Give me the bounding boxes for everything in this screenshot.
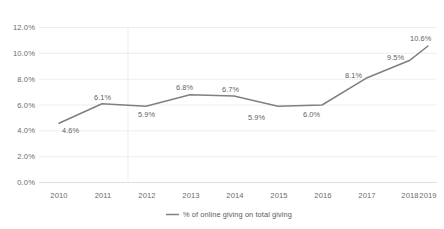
x-tick-label-2013: 2013	[173, 191, 209, 200]
x-tick-label-2011: 2011	[85, 191, 121, 200]
data-label-2014: 6.7%	[222, 85, 239, 94]
y-tick-label-8: 8.0%	[0, 75, 35, 84]
data-label-2013: 6.8%	[176, 83, 193, 92]
x-tick-label-2016: 2016	[305, 191, 341, 200]
data-label-2016: 6.0%	[303, 110, 320, 119]
x-tick-label-2014: 2014	[217, 191, 253, 200]
data-label-2015: 5.9%	[248, 113, 265, 122]
legend-series-label: % of online giving on total giving	[183, 210, 292, 219]
x-tick-label-2010: 2010	[41, 191, 77, 200]
data-label-2012: 5.9%	[138, 110, 155, 119]
data-label-2019: 10.6%	[410, 34, 431, 43]
line-chart: 12.0% 10.0% 8.0% 6.0% 4.0% 2.0% 0.0% 201…	[0, 0, 444, 229]
y-tick-label-0: 0.0%	[0, 178, 35, 187]
x-tick-label-2019: 2019	[412, 191, 444, 200]
data-label-2017: 8.1%	[345, 71, 362, 80]
y-tick-label-10: 10.0%	[0, 49, 35, 58]
x-tick-label-2015: 2015	[261, 191, 297, 200]
x-tick-label-2012: 2012	[129, 191, 165, 200]
series-line-online-giving	[59, 46, 428, 123]
y-tick-label-2: 2.0%	[0, 152, 35, 161]
y-tick-label-4: 4.0%	[0, 126, 35, 135]
y-tick-label-6: 6.0%	[0, 101, 35, 110]
data-label-2018: 9.5%	[387, 53, 404, 62]
x-tick-label-2017: 2017	[349, 191, 385, 200]
data-label-2011: 6.1%	[94, 93, 111, 102]
data-label-2010: 4.6%	[62, 126, 79, 135]
y-tick-label-12: 12.0%	[0, 23, 35, 32]
